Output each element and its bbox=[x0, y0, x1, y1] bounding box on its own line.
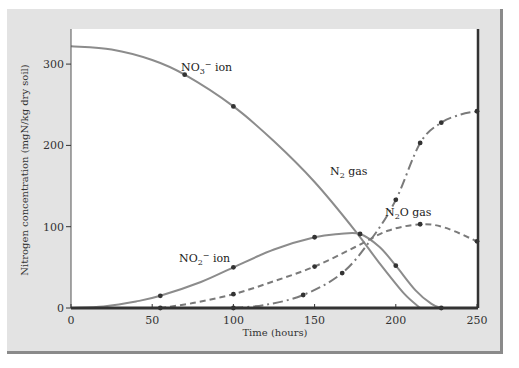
chart-svg: 0501001502002500100200300 NO3− ionNO2− i… bbox=[0, 0, 519, 368]
x-axis-title: Time (hours) bbox=[242, 327, 307, 338]
data-point bbox=[158, 293, 163, 298]
data-point bbox=[393, 263, 398, 268]
x-tick-label: 250 bbox=[467, 314, 488, 327]
data-point bbox=[312, 264, 317, 269]
y-tick-label: 200 bbox=[43, 139, 64, 152]
data-point bbox=[439, 120, 444, 125]
data-point bbox=[418, 141, 423, 146]
x-tick-label: 200 bbox=[385, 314, 406, 327]
y-tick-label: 300 bbox=[43, 58, 64, 71]
x-tick-label: 150 bbox=[304, 314, 325, 327]
y-tick-label: 100 bbox=[43, 221, 64, 234]
x-tick-label: 50 bbox=[145, 314, 159, 327]
series-label: N2 gas bbox=[330, 165, 368, 180]
data-point bbox=[358, 232, 363, 237]
data-point bbox=[393, 197, 398, 202]
data-point bbox=[312, 235, 317, 240]
x-tick-label: 0 bbox=[68, 314, 75, 327]
data-point bbox=[301, 293, 306, 298]
series-label: N2O gas bbox=[385, 206, 432, 221]
data-point bbox=[231, 292, 236, 297]
y-tick-label: 0 bbox=[57, 302, 64, 315]
y-axis-title: Nitrogen concentration (mgN/kg dry soil) bbox=[19, 64, 30, 275]
data-point bbox=[231, 104, 236, 109]
data-point bbox=[340, 271, 345, 276]
data-point bbox=[418, 222, 423, 227]
plot-area bbox=[71, 29, 478, 308]
x-tick-label: 100 bbox=[223, 314, 244, 327]
data-point bbox=[231, 265, 236, 270]
